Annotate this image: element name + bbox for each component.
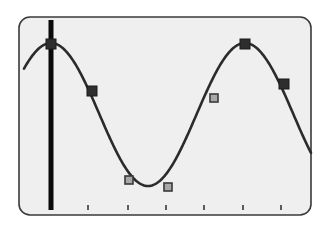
marker-dark: [87, 86, 97, 96]
marker-dark: [46, 39, 56, 49]
marker-light: [164, 183, 172, 191]
marker-light: [210, 94, 218, 102]
marker-dark: [240, 39, 250, 49]
marker-light: [125, 176, 133, 184]
marker-dark: [279, 79, 289, 89]
chart: [0, 0, 328, 228]
